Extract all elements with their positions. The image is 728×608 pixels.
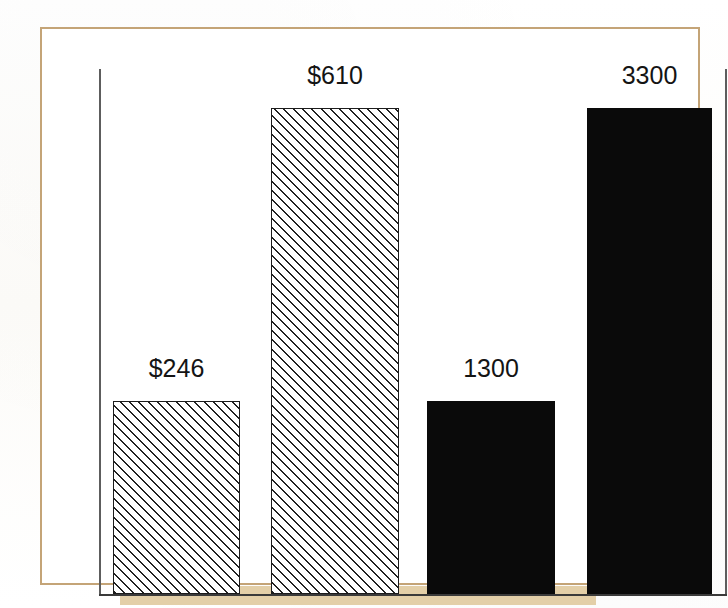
scanned-page: $246 $610 1300 3300 <box>0 0 728 608</box>
bar-1[interactable] <box>271 108 399 594</box>
bar-1-value-label: $610 <box>271 63 399 88</box>
bar-2-value-label: 1300 <box>427 356 555 381</box>
bar-2[interactable] <box>427 401 555 594</box>
bar-3[interactable] <box>587 108 712 594</box>
y-axis-right-spine <box>725 69 727 596</box>
bar-3-value-label: 3300 <box>587 63 712 88</box>
y-axis-left-spine <box>99 69 101 596</box>
bar-chart-plot-area: $246 $610 1300 3300 <box>99 69 727 596</box>
bar-0[interactable] <box>113 401 240 594</box>
x-axis-baseline <box>99 594 727 596</box>
bar-0-value-label: $246 <box>113 356 240 381</box>
chart-frame-border: $246 $610 1300 3300 <box>40 27 700 585</box>
